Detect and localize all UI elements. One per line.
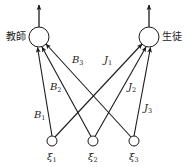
input-label-xi1: ξ1 bbox=[47, 152, 57, 164]
input-node-xi2 bbox=[88, 136, 98, 146]
edge-subscript: 3 bbox=[148, 107, 152, 115]
edge-j2 bbox=[95, 47, 146, 137]
edge-label-b1: B1 bbox=[34, 110, 46, 122]
teacher-node bbox=[29, 27, 49, 47]
edge-subscript: 3 bbox=[79, 59, 83, 67]
edge-subscript: 2 bbox=[57, 86, 61, 94]
edge-subscript: 1 bbox=[108, 59, 112, 67]
input-node-xi3 bbox=[129, 136, 139, 146]
input-label-xi2: ξ2 bbox=[88, 152, 98, 164]
edge-label-j3: J3 bbox=[144, 103, 152, 115]
teacher-label: 教師 bbox=[6, 32, 26, 42]
student-node bbox=[139, 27, 159, 47]
teacher-student-network-diagram bbox=[0, 0, 189, 167]
input-label-xi3: ξ3 bbox=[129, 152, 139, 164]
input-subscript: 1 bbox=[53, 156, 57, 164]
edge-label-b2: B2 bbox=[50, 82, 62, 94]
edge-subscript: 2 bbox=[132, 86, 136, 94]
input-subscript: 2 bbox=[94, 156, 98, 164]
edge-j3 bbox=[134, 48, 151, 137]
edge-label-j2: J2 bbox=[128, 82, 136, 94]
edge-label-j1: J1 bbox=[104, 55, 112, 67]
edge-subscript: 1 bbox=[41, 114, 45, 122]
input-subscript: 3 bbox=[135, 156, 139, 164]
student-label: 生徒 bbox=[162, 32, 182, 42]
input-node-xi1 bbox=[47, 136, 57, 146]
edge-label-b3: B3 bbox=[72, 55, 84, 67]
